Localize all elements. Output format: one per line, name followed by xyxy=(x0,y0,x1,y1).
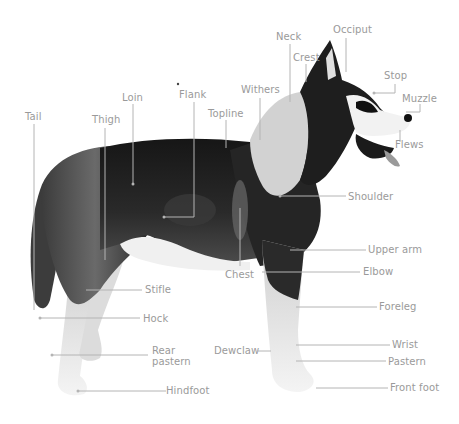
label-neck: Neck xyxy=(276,31,301,42)
face-light xyxy=(346,95,410,136)
label-dewclaw: Dewclaw xyxy=(214,345,259,356)
label-pastern: Pastern xyxy=(388,356,426,367)
label-wrist: Wrist xyxy=(392,339,418,350)
label-muzzle: Muzzle xyxy=(402,93,437,104)
label-crest: Crest xyxy=(293,52,320,63)
label-stifle: Stifle xyxy=(145,284,171,295)
dog-anatomy-diagram: Neck Occiput Crest Stop Muzzle Flews Wit… xyxy=(0,0,459,424)
label-withers: Withers xyxy=(241,84,280,95)
label-hock: Hock xyxy=(143,313,168,324)
label-stop: Stop xyxy=(384,70,407,81)
label-tail: Tail xyxy=(25,111,42,122)
stray-dot xyxy=(177,83,179,85)
nose xyxy=(404,114,412,122)
label-occiput: Occiput xyxy=(333,24,372,35)
label-flews: Flews xyxy=(395,139,424,150)
label-hindfoot: Hindfoot xyxy=(166,385,209,396)
label-rear-pastern: Rear pastern xyxy=(152,345,191,367)
label-shoulder: Shoulder xyxy=(348,191,393,202)
label-loin: Loin xyxy=(122,92,143,103)
label-thigh: Thigh xyxy=(92,114,120,125)
label-chest: Chest xyxy=(225,269,254,280)
label-flank: Flank xyxy=(179,89,206,100)
label-upper-arm: Upper arm xyxy=(368,244,422,255)
label-front-foot: Front foot xyxy=(390,382,439,393)
label-foreleg: Foreleg xyxy=(379,301,417,312)
label-topline: Topline xyxy=(208,108,244,119)
tongue-shape xyxy=(384,150,400,167)
flank-mid-tone xyxy=(164,194,216,226)
label-elbow: Elbow xyxy=(363,266,393,277)
